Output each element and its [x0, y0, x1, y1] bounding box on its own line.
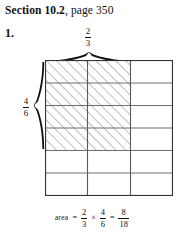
left-brace-icon	[33, 61, 45, 150]
area-equation: area=23×46=818	[0, 208, 184, 228]
equation-equals-2: =	[108, 213, 117, 223]
equation-factor-2: 46	[98, 208, 108, 228]
section-label: Section 10.2	[5, 4, 65, 16]
fraction-numerator: 2	[81, 208, 87, 217]
equation-equals-1: =	[70, 213, 79, 223]
equation-factor-1: 23	[79, 208, 89, 228]
fraction-four-sixths: 46	[100, 208, 106, 228]
equation-area-word: area	[53, 213, 70, 223]
top-fraction-label: 2 3	[77, 27, 99, 48]
area-model-grid	[45, 60, 173, 196]
fraction-numerator: 2	[85, 27, 92, 37]
fraction-denominator: 6	[100, 219, 106, 228]
fraction-eight-eighteenths: 818	[118, 208, 129, 228]
fraction-two-thirds: 23	[81, 208, 87, 228]
fraction-two-thirds: 2 3	[85, 27, 92, 48]
top-brace-icon	[45, 49, 133, 60]
equation-times-sign: ×	[89, 213, 98, 223]
fraction-denominator: 3	[85, 39, 92, 49]
fraction-denominator: 3	[81, 219, 87, 228]
worksheet-page: Section 10.2, page 350 1. 2 3 4 6	[0, 0, 184, 238]
fraction-denominator: 6	[23, 109, 30, 119]
page-header: Section 10.2, page 350	[5, 3, 114, 17]
problem-number: 1.	[5, 26, 14, 40]
fraction-four-sixths: 4 6	[23, 97, 30, 118]
fraction-denominator: 18	[118, 219, 129, 228]
page-label: , page 350	[65, 4, 114, 16]
fraction-numerator: 8	[118, 208, 129, 217]
fraction-numerator: 4	[100, 208, 106, 217]
fraction-numerator: 4	[23, 97, 30, 107]
equation-result: 818	[116, 208, 131, 228]
